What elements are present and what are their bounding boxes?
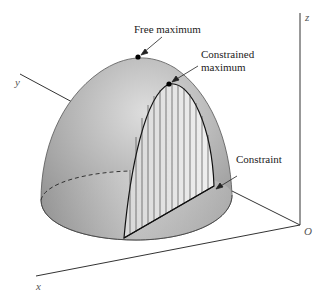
- free-maximum-label: Free maximum: [134, 23, 201, 35]
- constraint-label: Constraint: [236, 153, 282, 165]
- y-axis: [20, 74, 74, 103]
- constrained-maximum-label-line1: Constrained: [201, 48, 254, 60]
- diagram-canvas: [0, 0, 329, 299]
- back-axis-segment: [232, 191, 300, 225]
- origin-label: O: [304, 225, 312, 237]
- constrained-maximum-point: [166, 81, 171, 86]
- free-maximum-point: [135, 54, 140, 59]
- constrained-maximum-label-line2: maximum: [201, 61, 246, 73]
- y-axis-label: y: [15, 76, 20, 88]
- z-axis-label: z: [305, 11, 309, 23]
- x-axis-label: x: [36, 280, 41, 292]
